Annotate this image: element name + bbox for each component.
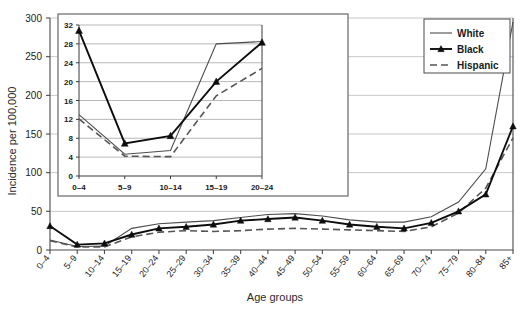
x-axis-title: Age groups xyxy=(247,291,304,303)
legend-label-hispanic: Hispanic xyxy=(457,60,499,71)
y-tick-label: 200 xyxy=(25,90,42,101)
inset-y-tick-label: 28 xyxy=(64,40,73,49)
inset-y-tick-label: 24 xyxy=(64,59,73,68)
y-tick-label: 150 xyxy=(25,129,42,140)
inset-x-tick-label: 0–4 xyxy=(72,183,86,192)
inset-frame xyxy=(58,14,348,196)
inset-y-tick-label: 12 xyxy=(64,115,73,124)
inset-y-tick-label: 8 xyxy=(69,134,74,143)
incidence-by-age-line-chart: 050100150200250300 0–45–910–1415–1920–24… xyxy=(0,0,525,315)
y-tick-label: 0 xyxy=(36,245,42,256)
y-tick-label: 100 xyxy=(25,167,42,178)
inset-y-tick-label: 20 xyxy=(64,78,73,87)
inset-y-tick-label: 0 xyxy=(69,172,74,181)
inset-x-tick-label: 10–14 xyxy=(159,183,182,192)
inset-y-tick-label: 32 xyxy=(64,21,73,30)
y-axis-title: Incidence per 100,000 xyxy=(6,87,18,196)
inset-y-tick-label: 16 xyxy=(64,97,73,106)
inset-x-tick-label: 20–24 xyxy=(251,183,274,192)
legend-label-black: Black xyxy=(457,44,484,55)
inset-panel: 048121620242832 0–45–910–1415–1920–24 xyxy=(58,14,348,196)
legend-label-white: White xyxy=(457,28,485,39)
inset-y-tick-label: 4 xyxy=(69,153,74,162)
inset-x-tick-label: 5–9 xyxy=(118,183,132,192)
y-tick-label: 300 xyxy=(25,13,42,24)
y-tick-label: 50 xyxy=(31,206,43,217)
y-tick-label: 250 xyxy=(25,51,42,62)
legend: WhiteBlackHispanic xyxy=(424,19,510,73)
figure-container: 050100150200250300 0–45–910–1415–1920–24… xyxy=(0,0,525,315)
inset-x-tick-label: 15–19 xyxy=(205,183,228,192)
